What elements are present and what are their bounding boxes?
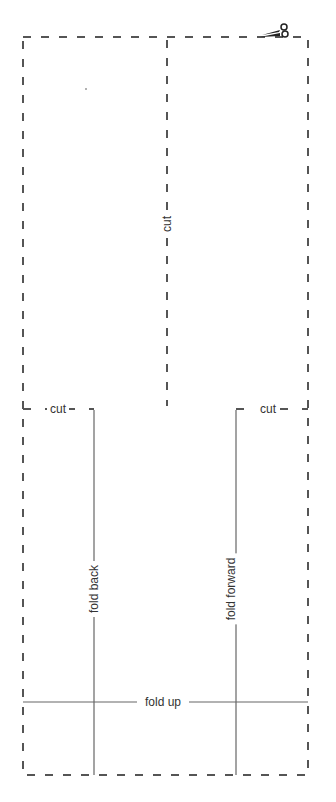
speck xyxy=(85,88,87,90)
fold-back-label: fold back xyxy=(85,561,103,617)
fold-forward-label: fold forward xyxy=(222,554,240,625)
fold-up-label: fold up xyxy=(137,695,189,709)
template-diagram xyxy=(0,0,336,802)
left-cut-label: cut xyxy=(47,402,69,416)
center-cut-label: cut xyxy=(158,214,176,234)
scissors-icon xyxy=(260,24,288,37)
right-cut-label: cut xyxy=(257,402,279,416)
